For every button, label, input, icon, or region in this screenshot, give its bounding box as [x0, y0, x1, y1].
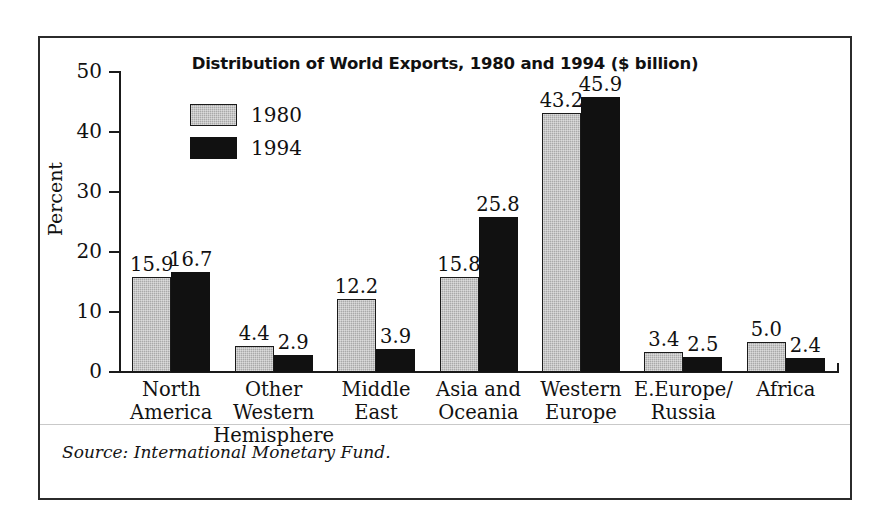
y-axis-tick [109, 311, 120, 313]
y-axis-tick [109, 191, 120, 193]
bar[interactable]: 15.9 [132, 277, 171, 372]
x-axis-end-tick [837, 363, 839, 373]
bar[interactable]: 43.2 [542, 113, 581, 372]
bar[interactable]: 3.9 [376, 349, 415, 372]
chart-title: Distribution of World Exports, 1980 and … [40, 54, 850, 73]
bar-group: 12.23.9 [337, 72, 415, 372]
bar-value-label: 2.5 [687, 335, 718, 355]
category-label: Africa [721, 378, 851, 401]
y-axis-tick [109, 371, 120, 373]
bar-group: 43.245.9 [542, 72, 620, 372]
bar[interactable]: 3.4 [644, 352, 683, 372]
y-axis-tick-label: 40 [40, 120, 102, 142]
bar[interactable]: 15.8 [440, 277, 479, 372]
plot-area: 15.916.74.42.912.23.915.825.843.245.93.4… [120, 72, 837, 372]
source-note: Source: International Monetary Fund. [62, 442, 391, 462]
bar[interactable]: 4.4 [235, 346, 274, 372]
bar-value-label: 3.4 [648, 330, 679, 350]
bar-value-label: 15.8 [437, 255, 480, 275]
bar-group: 3.42.5 [644, 72, 722, 372]
bar-value-label: 43.2 [540, 91, 583, 111]
bar-group: 15.916.7 [132, 72, 210, 372]
y-axis-tick-label: 50 [40, 60, 102, 82]
figure-frame: Distribution of World Exports, 1980 and … [38, 36, 852, 500]
y-axis-tick-label: 0 [40, 360, 102, 382]
bar-group: 4.42.9 [235, 72, 313, 372]
bar[interactable]: 16.7 [171, 272, 210, 372]
bar[interactable]: 45.9 [581, 97, 620, 372]
y-axis-tick [109, 71, 120, 73]
y-axis-tick-label: 20 [40, 240, 102, 262]
y-axis-tick [109, 131, 120, 133]
bar-value-label: 4.4 [239, 324, 270, 344]
bar[interactable]: 2.4 [786, 358, 825, 372]
bar[interactable]: 12.2 [337, 299, 376, 372]
y-axis-tick-label: 30 [40, 180, 102, 202]
source-divider [40, 424, 850, 425]
bar-value-label: 25.8 [476, 195, 519, 215]
bar-value-label: 12.2 [335, 277, 378, 297]
bar-value-label: 2.9 [278, 333, 309, 353]
bar-value-label: 3.9 [380, 327, 411, 347]
bar-value-label: 15.9 [130, 255, 173, 275]
bar[interactable]: 2.5 [683, 357, 722, 372]
bar-value-label: 2.4 [790, 336, 821, 356]
bar-group: 5.02.4 [747, 72, 825, 372]
bar-value-label: 16.7 [169, 250, 212, 270]
bar-group: 15.825.8 [440, 72, 518, 372]
bar[interactable]: 25.8 [479, 217, 518, 372]
bar[interactable]: 2.9 [274, 355, 313, 372]
y-axis-tick-label: 10 [40, 300, 102, 322]
bar-value-label: 5.0 [751, 320, 782, 340]
y-axis-tick [109, 251, 120, 253]
bar[interactable]: 5.0 [747, 342, 786, 372]
bar-value-label: 45.9 [579, 75, 622, 95]
